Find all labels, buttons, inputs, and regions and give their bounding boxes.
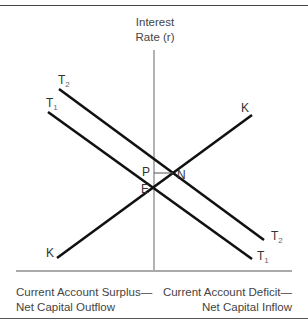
footer-left-line2: Net Capital Outflow (16, 300, 152, 315)
diagram-canvas (0, 0, 308, 324)
curve-t2 (59, 89, 264, 240)
footer-right-line2: Net Capital Inflow (163, 300, 292, 315)
label-point-n: N (177, 168, 186, 182)
label-t2-end: T2 (271, 229, 283, 248)
footer-right-line1: Current Account Deficit— (163, 285, 292, 300)
bottom-border (0, 318, 308, 319)
label-k-top: K (241, 101, 249, 115)
label-t1: T1 (46, 96, 58, 115)
footer-left: Current Account Surplus— Net Capital Out… (16, 285, 152, 315)
curve-t1 (48, 112, 252, 259)
label-point-e: E (141, 182, 149, 196)
label-t2: T2 (58, 73, 70, 92)
label-point-p: P (142, 165, 150, 179)
label-t1-end: T1 (257, 249, 269, 268)
footer-left-line1: Current Account Surplus— (16, 285, 152, 300)
footer-right: Current Account Deficit— Net Capital Inf… (163, 285, 292, 315)
label-k-bottom: K (46, 246, 54, 260)
